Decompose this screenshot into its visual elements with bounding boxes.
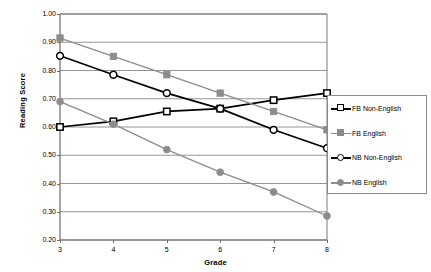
legend-item-0[interactable]: FB Non-English (328, 96, 426, 121)
data-point (164, 72, 170, 78)
legend-symbol-3 (337, 179, 344, 186)
data-point (324, 213, 331, 220)
legend-item-2[interactable]: NB Non-English (328, 146, 426, 171)
legend-symbol-1 (337, 129, 344, 136)
legend: FB Non-English FB English NB Non-English… (327, 95, 427, 194)
data-point (163, 146, 170, 153)
legend-marker-2 (331, 152, 351, 164)
legend-item-3[interactable]: NB English (328, 170, 426, 195)
data-point (163, 90, 170, 97)
data-point (217, 90, 223, 96)
data-point (57, 52, 64, 59)
series-line-3 (60, 102, 327, 216)
series-line-0 (60, 93, 327, 127)
legend-item-1[interactable]: FB English (328, 121, 426, 146)
data-point (217, 169, 224, 176)
legend-marker-1 (331, 127, 351, 139)
data-point (270, 126, 277, 133)
reading-score-line-chart: Reading Score Grade 1.000.900.800.700.60… (0, 0, 431, 272)
legend-label-2: NB Non-English (351, 154, 402, 161)
data-point (164, 108, 170, 114)
data-point (57, 124, 63, 130)
legend-label-0: FB Non-English (351, 105, 401, 112)
legend-symbol-0 (337, 104, 344, 111)
data-point (270, 97, 276, 103)
data-point (110, 121, 117, 128)
series-line-1 (60, 38, 327, 130)
data-point (110, 71, 117, 78)
legend-symbol-2 (337, 154, 344, 161)
data-point (57, 98, 64, 105)
legend-label-1: FB English (351, 130, 386, 137)
data-point (270, 189, 277, 196)
legend-marker-3 (331, 177, 351, 189)
data-point (57, 35, 63, 41)
legend-label-3: NB English (351, 179, 387, 186)
series-line-2 (60, 56, 327, 148)
data-point (217, 105, 224, 112)
data-point (270, 108, 276, 114)
legend-marker-0 (331, 102, 351, 114)
data-point (110, 53, 116, 59)
gridlines (60, 14, 327, 240)
